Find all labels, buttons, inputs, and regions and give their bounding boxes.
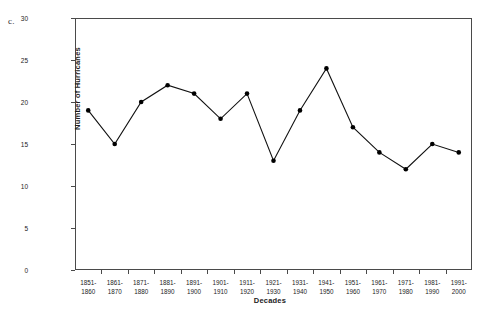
x-tick-mark xyxy=(154,270,155,274)
x-tick-mark xyxy=(260,270,261,274)
x-tick-mark xyxy=(419,270,420,274)
x-tick-label-line: 1991- xyxy=(437,279,481,288)
x-tick-mark xyxy=(366,270,367,274)
y-tick-mark xyxy=(71,270,75,271)
y-tick-mark xyxy=(71,18,75,19)
y-tick-mark xyxy=(71,102,75,103)
x-axis-title: Decades xyxy=(0,296,484,305)
x-axis-title-text: Decades xyxy=(254,296,286,305)
x-tick-mark xyxy=(313,270,314,274)
x-tick-label: 1991-2000 xyxy=(437,279,481,296)
y-tick-mark xyxy=(71,186,75,187)
y-tick-label: 5 xyxy=(0,225,28,232)
figure: c. Number of Hurricanes 051015202530 185… xyxy=(0,0,484,317)
y-tick-label: 25 xyxy=(0,57,28,64)
y-tick-mark xyxy=(71,144,75,145)
x-tick-mark xyxy=(181,270,182,274)
x-tick-mark xyxy=(128,270,129,274)
y-tick-label: 10 xyxy=(0,183,28,190)
x-tick-mark xyxy=(287,270,288,274)
y-tick-label: 0 xyxy=(0,267,28,274)
y-axis-title: Number of Hurricanes xyxy=(73,4,82,174)
x-tick-mark xyxy=(393,270,394,274)
y-tick-label: 20 xyxy=(0,99,28,106)
plot-area xyxy=(75,18,472,270)
x-tick-label-line: 2000 xyxy=(437,288,481,297)
x-tick-mark xyxy=(446,270,447,274)
x-tick-mark xyxy=(207,270,208,274)
y-tick-mark xyxy=(71,228,75,229)
x-tick-mark xyxy=(234,270,235,274)
y-tick-label: 15 xyxy=(0,141,28,148)
x-tick-mark xyxy=(340,270,341,274)
x-tick-mark xyxy=(101,270,102,274)
y-tick-mark xyxy=(71,60,75,61)
y-tick-label: 30 xyxy=(0,15,28,22)
